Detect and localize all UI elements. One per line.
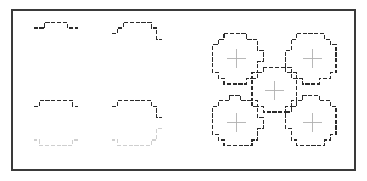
figure-root (0, 0, 367, 181)
figure-canvas (0, 0, 367, 181)
figure-background (0, 0, 367, 181)
